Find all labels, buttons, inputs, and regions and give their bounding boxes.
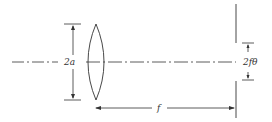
focal-length-dimension <box>95 106 235 110</box>
spot-width-label: 2fθ <box>242 57 258 67</box>
aperture-label: 2a <box>63 57 75 67</box>
focal-length-label: f <box>156 103 162 113</box>
optics-diagram: 2a f 2fθ <box>0 0 272 122</box>
